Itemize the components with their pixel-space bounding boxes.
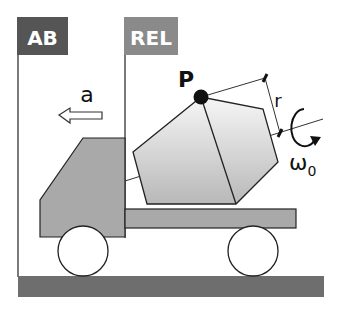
mixer-drum: [133, 97, 278, 204]
absolute-frame: AB: [17, 17, 68, 277]
omega-label: ω0: [289, 150, 316, 179]
acceleration-label: a: [80, 82, 93, 107]
ground: [18, 276, 324, 297]
point-p-label: P: [178, 67, 194, 92]
relative-frame-label: REL: [130, 26, 172, 50]
point-p-marker: [194, 90, 209, 105]
absolute-frame-label: AB: [27, 26, 58, 50]
acceleration-arrow: a: [59, 82, 102, 123]
truck-mixer-diagram: AB REL a r P ω0: [0, 0, 343, 310]
arrow-left-icon: [59, 108, 102, 123]
radius-extension-line: [201, 78, 265, 97]
drum-body: [133, 97, 278, 204]
front-wheel: [58, 226, 108, 276]
radius-label: r: [274, 90, 282, 111]
truck-chassis: [125, 209, 296, 228]
radius-tick-bottom: [278, 129, 282, 137]
radius-tick-top: [263, 74, 267, 82]
truck-cab: [40, 138, 125, 237]
rear-wheel: [228, 226, 278, 276]
point-p: P: [178, 67, 209, 105]
angular-velocity: ω0: [289, 109, 321, 179]
